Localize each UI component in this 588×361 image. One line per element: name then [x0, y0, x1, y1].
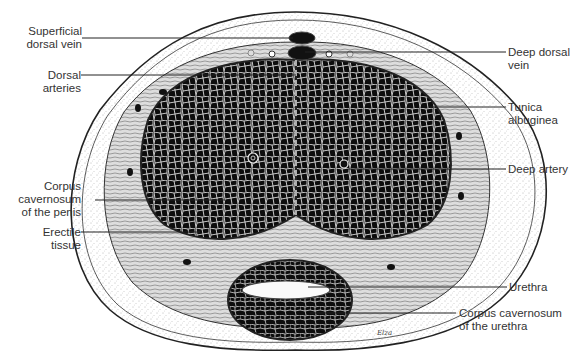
label-corpus-cavernosum-penis: Corpus cavernosum of the penis: [0, 180, 81, 219]
urethra-lumen: [242, 281, 330, 299]
deep-dorsal-vein-shape: [288, 46, 316, 60]
label-tunica-albuginea: Tunica albuginea: [508, 101, 558, 127]
label-urethra: Urethra: [509, 281, 547, 294]
label-deep-artery: Deep artery: [508, 163, 568, 176]
corpus-spongiosum: [228, 260, 352, 340]
label-superficial-dorsal-vein: Superficial dorsal vein: [0, 25, 82, 51]
label-erectile-tissue: Erectile tissue: [0, 226, 81, 252]
label-corpus-cavernosum-urethra: Corpus cavernosum of the urethra: [459, 307, 562, 333]
label-dorsal-arteries: Dorsal arteries: [0, 69, 81, 95]
label-deep-dorsal-vein: Deep dorsal vein: [508, 46, 570, 72]
artist-signature: Elza: [377, 329, 392, 337]
penis-cross-section-diagram: Superficial dorsal vein Dorsal arteries …: [0, 0, 588, 361]
